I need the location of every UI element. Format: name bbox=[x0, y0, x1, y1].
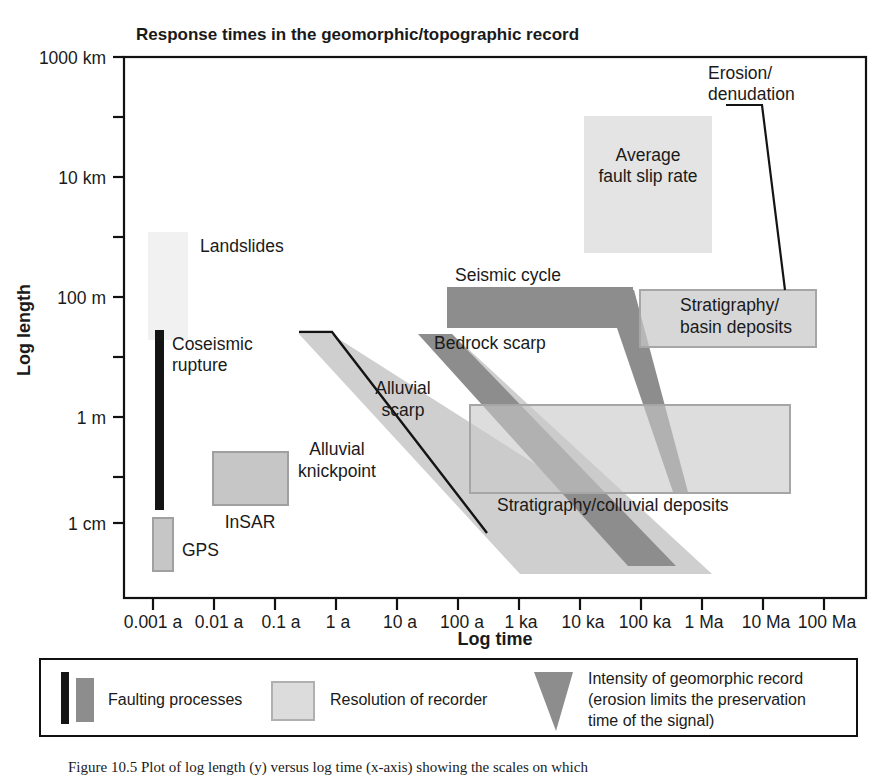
alluvial-knickpoint-label-line1: Alluvial bbox=[309, 439, 364, 459]
seismic-cycle-label: Seismic cycle bbox=[455, 265, 561, 285]
x-tick-label-2: 0.1 a bbox=[262, 612, 301, 632]
x-axis-title: Log time bbox=[458, 629, 533, 649]
gps-box bbox=[153, 518, 173, 571]
alluvial-knickpoint-label-line2: knickpoint bbox=[298, 461, 376, 481]
figure-caption: Figure 10.5 Plot of log length (y) versu… bbox=[68, 759, 588, 775]
x-tick-label-8: 100 ka bbox=[619, 612, 672, 632]
x-tick-label-9: 1 Ma bbox=[685, 612, 724, 632]
x-tick-label-10: 10 Ma bbox=[742, 612, 791, 632]
stratigraphy-colluvial-box bbox=[470, 405, 790, 493]
legend-label-intensity-line3: time of the signal) bbox=[588, 712, 714, 729]
legend-label-intensity-line2: (erosion limits the preservation bbox=[588, 691, 806, 708]
landslides-label: Landslides bbox=[200, 236, 284, 256]
insar-box bbox=[213, 452, 288, 505]
x-tick-label-3: 1 a bbox=[326, 612, 351, 632]
erosion-denudation-label-line1: Erosion/ bbox=[708, 63, 772, 83]
legend-label-resolution-of-recorder: Resolution of recorder bbox=[330, 691, 488, 708]
y-tick-label-1000km: 1000 km bbox=[39, 48, 106, 68]
y-tick-label-1m: 1 m bbox=[77, 408, 106, 428]
figure-svg: Response times in the geomorphic/topogra… bbox=[0, 0, 893, 775]
x-tick-label-0: 0.001 a bbox=[124, 612, 183, 632]
legend-label-faulting-processes: Faulting processes bbox=[108, 691, 242, 708]
x-tick-label-6: 1 ka bbox=[504, 612, 537, 632]
coseismic-rupture-label-line2: rupture bbox=[172, 355, 227, 375]
faulting-black-bar-swatch bbox=[61, 672, 69, 724]
x-tick-label-11: 100 Ma bbox=[798, 612, 857, 632]
average-fault-slip-rate-label-line1: Average bbox=[616, 145, 681, 165]
stratigraphy-basin-label-line2: basin deposits bbox=[680, 317, 792, 337]
x-tick-label-4: 10 a bbox=[383, 612, 417, 632]
landslides-box bbox=[148, 232, 188, 340]
y-tick-label-100m: 100 m bbox=[57, 288, 106, 308]
resolution-square-swatch bbox=[272, 682, 314, 720]
faulting-gray-bar-swatch bbox=[76, 678, 94, 722]
seismic-cycle-bar bbox=[447, 287, 633, 328]
y-tick-label-10km: 10 km bbox=[58, 168, 106, 188]
y-tick-label-1cm: 1 cm bbox=[68, 514, 106, 534]
chart-title: Response times in the geomorphic/topogra… bbox=[136, 25, 579, 44]
alluvial-scarp-label-line1: Alluvial bbox=[375, 378, 430, 398]
average-fault-slip-rate-label-line2: fault slip rate bbox=[598, 166, 697, 186]
stratigraphy-basin-label-line1: Stratigraphy/ bbox=[680, 295, 779, 315]
bedrock-scarp-label: Bedrock scarp bbox=[434, 333, 546, 353]
x-tick-label-5: 100 a bbox=[440, 612, 484, 632]
insar-label: InSAR bbox=[225, 512, 276, 532]
coseismic-rupture-label-line1: Coseismic bbox=[172, 334, 253, 354]
stratigraphy-colluvial-label: Stratigraphy/colluvial deposits bbox=[497, 495, 729, 515]
figure-root: Response times in the geomorphic/topogra… bbox=[0, 0, 893, 775]
x-tick-label-1: 0.01 a bbox=[195, 612, 244, 632]
coseismic-rupture-bar bbox=[155, 330, 164, 510]
gps-label: GPS bbox=[182, 540, 219, 560]
legend-label-intensity-line1: Intensity of geomorphic record bbox=[588, 670, 803, 687]
alluvial-scarp-label-line2: scarp bbox=[382, 400, 425, 420]
erosion-denudation-label-line2: denudation bbox=[708, 84, 795, 104]
y-axis-title: Log length bbox=[14, 284, 34, 376]
x-tick-label-7: 10 ka bbox=[562, 612, 605, 632]
